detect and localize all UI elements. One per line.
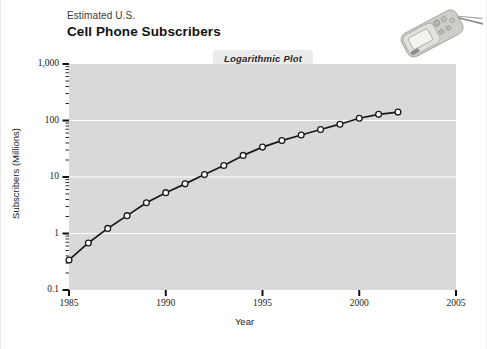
y-tick-label: 10 bbox=[21, 171, 59, 181]
x-major-ticks bbox=[69, 290, 456, 296]
flip-phone-photo-icon bbox=[383, 2, 483, 64]
x-tick-label: 2000 bbox=[329, 298, 389, 308]
y-axis-title: Subscribers (Millions) bbox=[10, 99, 21, 249]
y-tick-label: 0.1 bbox=[21, 284, 59, 294]
x-tick-label: 1985 bbox=[39, 298, 99, 308]
x-tick-label: 1990 bbox=[136, 298, 196, 308]
y-tick-label: 100 bbox=[21, 115, 59, 125]
chart-figure: Estimated U.S. Cell Phone Subscribers Lo… bbox=[0, 0, 487, 349]
x-axis-title: Year bbox=[1, 316, 487, 327]
plot-background bbox=[69, 64, 456, 290]
x-tick-label: 1995 bbox=[233, 298, 293, 308]
chart-subtitle-line: Estimated U.S. bbox=[67, 10, 221, 22]
y-tick-label: 1,000 bbox=[21, 58, 59, 68]
chart-title-block: Estimated U.S. Cell Phone Subscribers bbox=[67, 10, 221, 39]
page-title: Cell Phone Subscribers bbox=[67, 24, 221, 40]
x-tick-label: 2005 bbox=[426, 298, 486, 308]
y-tick-label: 1 bbox=[21, 228, 59, 238]
